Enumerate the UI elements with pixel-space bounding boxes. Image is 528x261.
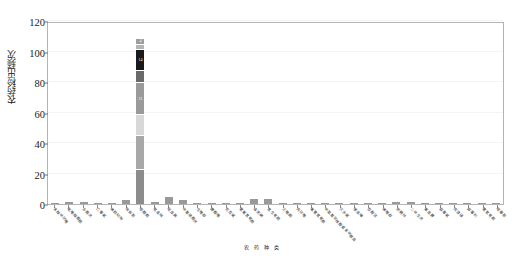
y-tick-mark bbox=[45, 174, 48, 175]
x-label-slot: 嘧菌酯 bbox=[133, 206, 147, 261]
x-label-slot: 嘧霉胺 bbox=[490, 206, 504, 261]
bar-slot bbox=[347, 23, 361, 204]
bar-segment bbox=[136, 70, 144, 82]
bar-slot bbox=[389, 23, 403, 204]
bar[interactable] bbox=[250, 198, 258, 204]
bar-slot bbox=[276, 23, 290, 204]
bar-slot bbox=[403, 23, 417, 204]
bar[interactable] bbox=[80, 201, 88, 204]
bar[interactable] bbox=[165, 196, 173, 204]
bar[interactable] bbox=[421, 202, 429, 204]
bar[interactable] bbox=[350, 202, 358, 204]
bar[interactable] bbox=[151, 201, 159, 204]
bar[interactable] bbox=[179, 199, 187, 204]
bar[interactable] bbox=[122, 199, 130, 204]
bar-segment bbox=[449, 202, 457, 204]
bar-slot bbox=[304, 23, 318, 204]
bar-segment bbox=[478, 202, 486, 204]
bar-segment bbox=[51, 202, 59, 204]
bar[interactable] bbox=[236, 202, 244, 204]
bar-segment bbox=[65, 201, 73, 204]
plot-area: 21144 bbox=[47, 22, 504, 205]
bar[interactable] bbox=[407, 201, 415, 204]
x-label-slot: 吡唑醚菌酯 bbox=[61, 206, 75, 261]
bar-segment bbox=[165, 196, 173, 204]
x-label-slot: 二甲戊灵 bbox=[404, 206, 418, 261]
y-tick-mark bbox=[45, 52, 48, 53]
bar-segment bbox=[321, 202, 329, 204]
bar-segment bbox=[435, 202, 443, 204]
bar-segment: 21 bbox=[136, 82, 144, 114]
bar[interactable] bbox=[478, 202, 486, 204]
x-label-slot: 氰戊菊酯 bbox=[261, 206, 275, 261]
bar-slot bbox=[176, 23, 190, 204]
bar-segment bbox=[293, 202, 301, 204]
bar-segment bbox=[350, 202, 358, 204]
bar-segment bbox=[250, 198, 258, 204]
bar-slot bbox=[105, 23, 119, 204]
bar-segment bbox=[463, 202, 471, 204]
bar-segment bbox=[222, 202, 230, 204]
x-label-slot: 炔螨特 bbox=[390, 206, 404, 261]
bar-slot bbox=[162, 23, 176, 204]
bar-segment bbox=[264, 198, 272, 204]
x-label-slot: 苯醚甲环唑 bbox=[47, 206, 61, 261]
bar[interactable] bbox=[51, 202, 59, 204]
bar[interactable] bbox=[435, 202, 443, 204]
bar-segment bbox=[151, 201, 159, 204]
bar[interactable] bbox=[492, 202, 500, 204]
bar[interactable] bbox=[449, 202, 457, 204]
y-tick-label: 40 bbox=[17, 139, 45, 150]
bar-slot bbox=[148, 23, 162, 204]
bar[interactable] bbox=[208, 202, 216, 204]
bar[interactable] bbox=[307, 202, 315, 204]
x-label-slot: 三唑酮 bbox=[276, 206, 290, 261]
bar-segment bbox=[307, 202, 315, 204]
bar[interactable] bbox=[335, 202, 343, 204]
bar-slot bbox=[460, 23, 474, 204]
y-tick-label: 20 bbox=[17, 169, 45, 180]
x-label-slot: 咪鲜胺 bbox=[118, 206, 132, 261]
bar-segment bbox=[279, 202, 287, 204]
y-tick-label: 0 bbox=[17, 200, 45, 211]
bar-segment bbox=[378, 202, 386, 204]
bar-slot bbox=[247, 23, 261, 204]
bar[interactable] bbox=[463, 202, 471, 204]
bar-segment bbox=[179, 199, 187, 204]
x-label-slot: 烯唑醇 bbox=[375, 206, 389, 261]
x-label-slot: 噻虫嗪 bbox=[347, 206, 361, 261]
bar[interactable] bbox=[378, 202, 386, 204]
x-label-slot: 吡虫啉 bbox=[147, 206, 161, 261]
bar[interactable] bbox=[65, 201, 73, 204]
bar[interactable] bbox=[392, 201, 400, 204]
bar[interactable] bbox=[94, 202, 102, 204]
bar-segment bbox=[136, 135, 144, 169]
bar[interactable] bbox=[321, 202, 329, 204]
bar-segment bbox=[421, 202, 429, 204]
bar[interactable] bbox=[108, 202, 116, 204]
bar[interactable] bbox=[193, 202, 201, 204]
y-tick-label: 80 bbox=[17, 78, 45, 89]
x-label-slot: 戊唑醇 bbox=[190, 206, 204, 261]
bar[interactable] bbox=[364, 202, 372, 204]
bar[interactable]: 21144 bbox=[136, 38, 144, 204]
bar[interactable] bbox=[264, 198, 272, 204]
bar-segment bbox=[136, 114, 144, 135]
bar-slot bbox=[76, 23, 90, 204]
bar-slot bbox=[219, 23, 233, 204]
bar[interactable] bbox=[279, 202, 287, 204]
x-label-slot: 腐霉利 bbox=[461, 206, 475, 261]
bar-slot bbox=[290, 23, 304, 204]
bar[interactable] bbox=[293, 202, 301, 204]
bar-segment bbox=[208, 202, 216, 204]
bar-slot bbox=[204, 23, 218, 204]
bar-slot bbox=[233, 23, 247, 204]
x-label-slot: 霜霉威 bbox=[433, 206, 447, 261]
bar-slot bbox=[475, 23, 489, 204]
x-label-slot: 甲氨基阿维菌素苯甲酸盐 bbox=[318, 206, 332, 261]
bar[interactable] bbox=[222, 202, 230, 204]
x-label-slot: 丙环唑 bbox=[290, 206, 304, 261]
x-tick-label: 嘧霉胺 bbox=[495, 207, 506, 219]
bar-segment bbox=[335, 202, 343, 204]
y-tick-label: 120 bbox=[17, 17, 45, 28]
